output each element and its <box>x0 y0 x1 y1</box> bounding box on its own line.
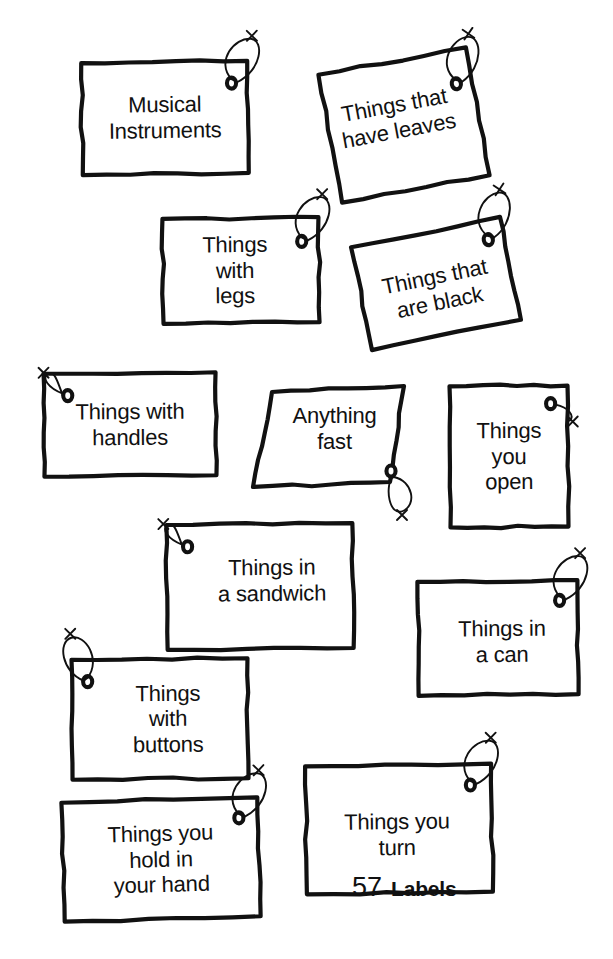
label-text-things-you-open: Things you open <box>450 386 569 528</box>
label-text-things-with-buttons: Things with buttons <box>79 658 256 780</box>
label-tag-anything-fast[interactable]: Anything fast <box>253 386 404 487</box>
label-tag-things-that-are-black[interactable]: Things that are black <box>351 217 521 350</box>
label-text-things-with-handles: Things with handles <box>44 372 217 476</box>
label-tag-things-with-buttons[interactable]: Things with buttons <box>71 658 248 780</box>
label-tag-things-in-a-sandwich[interactable]: Things in a sandwich <box>166 523 353 650</box>
label-text-musical-instruments: Musical Instruments <box>81 61 249 175</box>
label-text-things-you-hold-in-your-hand: Things you hold in your hand <box>61 797 260 921</box>
label-tag-things-in-a-can[interactable]: Things in a can <box>417 580 578 696</box>
label-text-things-that-are-black: Things that are black <box>352 223 522 356</box>
label-tag-things-you-hold-in-your-hand[interactable]: Things you hold in your hand <box>61 797 260 921</box>
label-text-things-with-legs: Things with legs <box>156 217 313 324</box>
label-tag-things-with-handles[interactable]: Things with handles <box>44 372 217 476</box>
label-text-things-in-a-sandwich: Things in a sandwich <box>178 517 365 644</box>
label-tag-musical-instruments[interactable]: Musical Instruments <box>81 61 249 175</box>
page-number: 57 <box>352 872 382 903</box>
label-text-things-in-a-can: Things in a can <box>421 584 582 700</box>
section-name: Labels <box>391 877 456 901</box>
page-footer: 57 Labels <box>352 872 456 903</box>
label-text-things-that-have-leaves: Things that have leaves <box>311 41 482 196</box>
label-tag-things-you-open[interactable]: Things you open <box>450 386 569 528</box>
worksheet-page: Musical InstrumentsThings that have leav… <box>0 0 613 959</box>
label-tag-things-that-have-leaves[interactable]: Things that have leaves <box>318 47 489 202</box>
label-text-anything-fast: Anything fast <box>259 378 410 479</box>
label-tag-things-with-legs[interactable]: Things with legs <box>162 217 319 324</box>
